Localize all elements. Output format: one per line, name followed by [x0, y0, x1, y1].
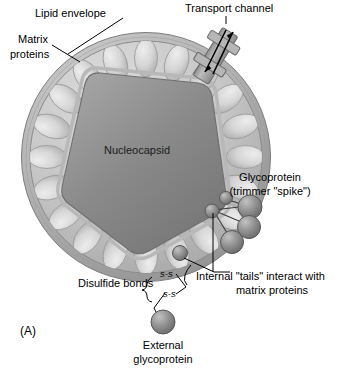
- virus-diagram-canvas: Lipid envelope Matrix proteins Transport…: [0, 0, 350, 371]
- leader-ss-lower-stroke: [176, 287, 186, 294]
- external-glycoprotein-sphere: [151, 310, 175, 334]
- label-internal-tails-line2: matrix proteins: [236, 284, 309, 296]
- virus-structure-figure: Lipid envelope Matrix proteins Transport…: [0, 0, 350, 371]
- label-transport-channel: Transport channel: [185, 2, 273, 14]
- label-ss-bond-2: s-s: [163, 288, 176, 299]
- label-glycoprotein-line1: Glycoprotein: [239, 171, 301, 183]
- label-matrix-proteins-line2: proteins: [10, 48, 50, 60]
- label-external-glycoprotein-line2: glycoprotein: [133, 353, 192, 365]
- label-external-glycoprotein-line1: External: [143, 339, 183, 351]
- leader-matrix-proteins: [52, 45, 80, 62]
- trimer-sphere-bottom: [221, 231, 244, 254]
- label-glycoprotein-line2: (trimmer "spike"): [229, 185, 310, 197]
- label-ss-bond-1: s-s: [160, 268, 173, 279]
- matrix-protein: [226, 146, 264, 169]
- trimer-tail-sphere-lower: [205, 204, 219, 218]
- label-lipid-envelope: Lipid envelope: [35, 7, 106, 19]
- label-internal-tails-line1: Internal "tails" interact with: [196, 270, 325, 282]
- matrix-protein: [28, 146, 66, 169]
- label-matrix-proteins-line1: Matrix: [18, 33, 48, 45]
- panel-label: (A): [20, 324, 36, 338]
- label-disulfide-bonds: Disulfide bonds: [78, 277, 154, 289]
- label-nucleocapsid: Nucleocapsid: [104, 144, 170, 156]
